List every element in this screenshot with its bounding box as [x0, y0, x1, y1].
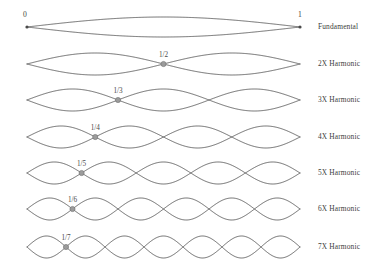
harmonic-label: 7X Harmonic [318, 243, 360, 250]
wave-curve [27, 89, 300, 111]
wave-curve [27, 27, 300, 37]
wave-curve [27, 89, 300, 111]
node-marker [115, 97, 120, 102]
harmonics-diagram: Fundamental1/22X Harmonic1/33X Harmonic1… [0, 0, 389, 280]
node-marker [161, 61, 166, 66]
axis-end-label: 1 [298, 11, 302, 19]
harmonic-label: Fundamental [318, 23, 358, 30]
harmonic-label: 2X Harmonic [318, 60, 360, 67]
harmonic-label: 5X Harmonic [318, 169, 360, 176]
node-fraction-label: 1/3 [108, 88, 128, 95]
right-endpoint-marker [298, 25, 301, 28]
axis-start-label: 0 [23, 11, 27, 19]
node-fraction-label: 1/7 [56, 235, 76, 242]
node-marker [93, 134, 98, 139]
harmonic-label: 4X Harmonic [318, 133, 360, 140]
node-marker [70, 206, 75, 211]
wave-curve [27, 17, 300, 27]
wave-curve [27, 126, 300, 148]
node-fraction-label: 1/4 [85, 125, 105, 132]
node-fraction-label: 1/2 [154, 52, 174, 59]
harmonic-label: 6X Harmonic [318, 205, 360, 212]
node-marker [79, 170, 84, 175]
harmonic-label: 3X Harmonic [318, 96, 360, 103]
node-fraction-label: 1/5 [72, 161, 92, 168]
node-fraction-label: 1/6 [63, 197, 83, 204]
node-marker [63, 244, 68, 249]
left-endpoint-marker [25, 25, 28, 28]
